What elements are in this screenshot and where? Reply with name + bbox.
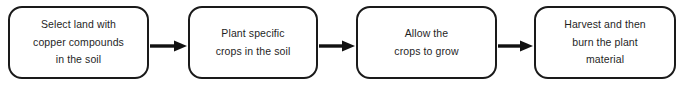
arrow-right-icon [498, 38, 533, 50]
flowchart-step-4: Harvest and then burn the plant material [534, 6, 676, 79]
flowchart-step-3: Allow the crops to grow [356, 6, 497, 79]
flowchart-step-2: Plant specific crops in the soil [188, 6, 318, 79]
arrow-right-icon [150, 38, 187, 50]
flowchart-diagram: Select land with copper compounds in the… [0, 0, 684, 91]
flowchart-step-2-label: Plant specific crops in the soil [196, 25, 310, 60]
flowchart-step-1: Select land with copper compounds in the… [8, 6, 149, 79]
flowchart-step-1-label: Select land with copper compounds in the… [16, 16, 141, 69]
arrow-right-icon [319, 38, 355, 50]
flowchart-step-3-label: Allow the crops to grow [364, 25, 489, 60]
flowchart-step-4-label: Harvest and then burn the plant material [542, 16, 668, 69]
